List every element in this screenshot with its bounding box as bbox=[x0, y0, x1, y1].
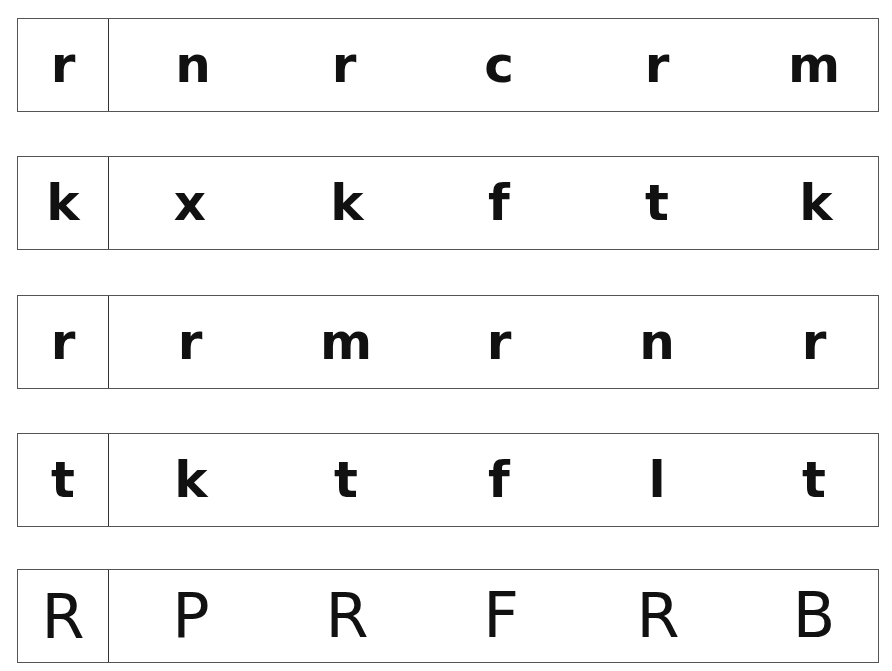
choice-letter[interactable]: k bbox=[776, 157, 856, 249]
worksheet-row-4: t k t f l t bbox=[17, 433, 879, 527]
choice-letter[interactable]: k bbox=[151, 434, 231, 526]
target-letter: r bbox=[51, 36, 76, 94]
choice-letter[interactable]: r bbox=[150, 296, 230, 388]
choice-letter[interactable]: m bbox=[774, 19, 854, 111]
target-letter-box: k bbox=[18, 157, 109, 249]
choice-letter[interactable]: t bbox=[617, 157, 697, 249]
choice-letter[interactable]: n bbox=[153, 19, 233, 111]
target-letter: R bbox=[41, 580, 84, 653]
choice-letter[interactable]: f bbox=[459, 434, 539, 526]
choice-letter[interactable]: r bbox=[459, 296, 539, 388]
choice-letter[interactable]: r bbox=[304, 19, 384, 111]
choice-letter[interactable]: c bbox=[459, 19, 539, 111]
worksheet-row-1: r n r c r m bbox=[17, 18, 879, 112]
target-letter-box: r bbox=[18, 296, 109, 388]
target-letter: r bbox=[51, 313, 76, 371]
choice-letter[interactable]: P bbox=[151, 570, 231, 662]
choice-letter[interactable]: x bbox=[150, 157, 230, 249]
target-letter-box: R bbox=[18, 570, 109, 662]
choice-letter[interactable]: t bbox=[306, 434, 386, 526]
choice-letter[interactable]: r bbox=[617, 19, 697, 111]
target-letter: t bbox=[51, 451, 75, 509]
choice-letter[interactable]: m bbox=[306, 296, 386, 388]
target-letter-box: r bbox=[18, 19, 109, 111]
choice-letter[interactable]: F bbox=[461, 570, 541, 662]
choice-letter[interactable]: l bbox=[617, 434, 697, 526]
choice-letter[interactable]: R bbox=[618, 570, 698, 662]
choice-letter[interactable]: f bbox=[459, 157, 539, 249]
worksheet-row-5: R P R F R B bbox=[17, 569, 879, 663]
choice-letter[interactable]: t bbox=[774, 434, 854, 526]
worksheet-row-3: r r m r n r bbox=[17, 295, 879, 389]
choice-letter[interactable]: k bbox=[307, 157, 387, 249]
target-letter-box: t bbox=[18, 434, 109, 526]
choice-letter[interactable]: r bbox=[774, 296, 854, 388]
choice-letter[interactable]: B bbox=[774, 570, 854, 662]
choice-letter[interactable]: n bbox=[617, 296, 697, 388]
choice-letter[interactable]: R bbox=[307, 570, 387, 662]
target-letter: k bbox=[46, 174, 79, 232]
worksheet-row-2: k x k f t k bbox=[17, 156, 879, 250]
